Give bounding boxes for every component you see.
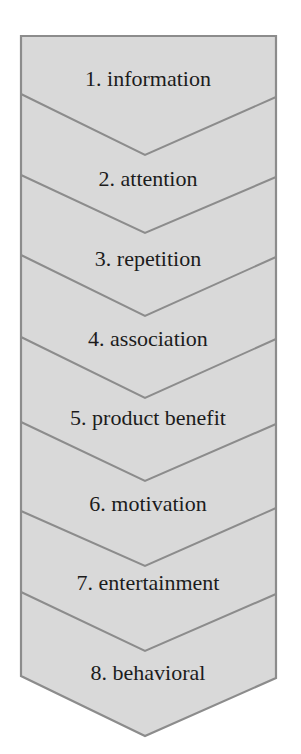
- step-label-1: 1. information: [85, 66, 211, 91]
- chevron-flow-diagram: 1. information 2. attention 3. repetitio…: [0, 0, 301, 754]
- flow-outline: [21, 36, 276, 736]
- step-label-8: 8. behavioral: [91, 660, 206, 685]
- step-label-5: 5. product benefit: [70, 405, 226, 430]
- step-label-4: 4. association: [88, 326, 208, 351]
- step-label-3: 3. repetition: [95, 246, 201, 271]
- step-label-2: 2. attention: [99, 166, 198, 191]
- step-label-7: 7. entertainment: [77, 570, 220, 595]
- step-label-6: 6. motivation: [89, 491, 206, 516]
